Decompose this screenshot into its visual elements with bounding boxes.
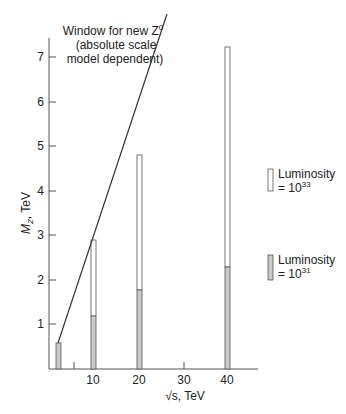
- svg-text:= 1031: = 1031: [278, 266, 311, 281]
- svg-text:30: 30: [177, 373, 191, 387]
- svg-text:20: 20: [132, 373, 146, 387]
- svg-text:40: 40: [220, 373, 234, 387]
- x-minor-ticks: [74, 362, 184, 369]
- y-axis-label: MZ, TeV: [19, 192, 35, 234]
- svg-text:model dependent): model dependent): [67, 52, 164, 66]
- legend-item-lum-33: Luminosity = 1033: [268, 167, 335, 195]
- x-tick-labels: 10 20 30 40: [86, 373, 234, 387]
- svg-text:= 1033: = 1033: [278, 180, 311, 195]
- mz-vs-sqrt-s-chart: 1 2 3 4 5 6 7 10 20 30 40 √s, TeV MZ, Te…: [0, 0, 346, 414]
- svg-text:2: 2: [37, 273, 44, 287]
- bar-sqrt-s-2: [56, 343, 61, 369]
- svg-text:6: 6: [37, 95, 44, 109]
- svg-text:Luminosity: Luminosity: [278, 167, 335, 181]
- svg-text:(absolute scale: (absolute scale: [76, 38, 157, 52]
- svg-text:MZ, TeV: MZ, TeV: [19, 192, 35, 234]
- legend: Luminosity = 1033 Luminosity = 1031: [268, 167, 335, 281]
- svg-text:10: 10: [86, 373, 100, 387]
- svg-text:5: 5: [37, 139, 44, 153]
- svg-text:1: 1: [37, 317, 44, 331]
- svg-text:Window for new Z0: Window for new Z0: [63, 23, 164, 38]
- y-ticks: [49, 57, 56, 324]
- svg-text:3: 3: [37, 228, 44, 242]
- svg-text:Luminosity: Luminosity: [278, 253, 335, 267]
- x-axis-label: √s, TeV: [165, 389, 205, 403]
- bar-sqrt-s-10: [91, 240, 96, 369]
- svg-text:7: 7: [37, 50, 44, 64]
- svg-text:4: 4: [37, 184, 44, 198]
- bar-sqrt-s-40: [225, 47, 230, 369]
- y-tick-labels: 1 2 3 4 5 6 7: [37, 50, 44, 331]
- legend-item-lum-31: Luminosity = 1031: [268, 253, 335, 281]
- window-annotation: Window for new Z0 (absolute scale model …: [63, 23, 164, 66]
- bar-sqrt-s-20: [137, 155, 142, 369]
